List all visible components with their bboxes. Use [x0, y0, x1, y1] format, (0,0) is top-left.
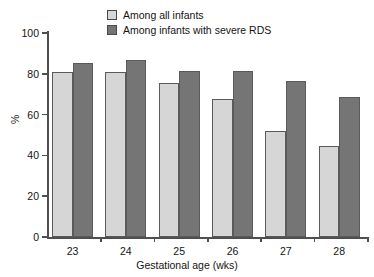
x-axis-tick-label-24: 24 [120, 245, 132, 257]
y-axis-tick-label: 0 [15, 231, 39, 243]
legend-swatch-icon-series-0 [107, 10, 117, 20]
y-axis-tick-mark [42, 73, 47, 75]
bar-28-series-0 [319, 146, 340, 237]
y-axis-tick: 80 [15, 68, 47, 80]
y-axis-tick: 20 [15, 190, 47, 202]
y-axis-tick-label: 100 [15, 27, 39, 39]
y-axis-tick: 40 [15, 149, 47, 161]
y-axis-tick-label: 40 [15, 149, 39, 161]
y-axis-tick-label: 80 [15, 68, 39, 80]
bar-23-series-0 [52, 72, 73, 237]
bar-chart: Among all infants Among infants with sev… [0, 0, 374, 277]
x-axis-tick-mark [207, 237, 209, 242]
y-axis-tick-mark [42, 195, 47, 197]
y-axis-tick-mark [42, 236, 47, 238]
y-axis-tick-mark [42, 114, 47, 116]
bar-23-series-1 [73, 63, 94, 237]
x-axis-tick-label-26: 26 [227, 245, 239, 257]
legend-label-series-0: Among all infants [123, 10, 204, 21]
chart-legend: Among all infants Among infants with sev… [107, 9, 271, 36]
x-axis-tick-label-28: 28 [333, 245, 345, 257]
x-axis-label: Gestational age (wks) [0, 259, 374, 271]
x-axis-tick-label-27: 27 [280, 245, 292, 257]
bar-24-series-1 [126, 60, 147, 237]
bar-26-series-1 [233, 71, 254, 237]
bar-26-series-0 [212, 99, 233, 237]
plot-area: 020406080100 [47, 33, 367, 237]
x-axis-tick-label-23: 23 [67, 245, 79, 257]
bar-25-series-0 [159, 83, 180, 237]
legend-item-all-infants: Among all infants [107, 9, 271, 21]
bar-25-series-1 [179, 71, 200, 237]
bar-27-series-1 [286, 81, 307, 237]
x-axis-tick-mark [154, 237, 156, 242]
x-axis-tick-label-25: 25 [173, 245, 185, 257]
x-axis-tick-mark [367, 237, 369, 242]
bar-24-series-0 [105, 72, 126, 237]
bar-28-series-1 [339, 97, 360, 237]
y-axis-tick: 100 [15, 27, 47, 39]
y-axis-tick: 0 [15, 231, 47, 243]
bar-27-series-0 [265, 131, 286, 237]
y-axis-tick-label: 20 [15, 190, 39, 202]
y-axis-tick-mark [42, 32, 47, 34]
x-axis-tick-mark [314, 237, 316, 242]
y-axis-tick-mark [42, 155, 47, 157]
x-axis-tick-mark [100, 237, 102, 242]
y-axis-label: % [9, 115, 21, 124]
x-axis-tick-mark [260, 237, 262, 242]
